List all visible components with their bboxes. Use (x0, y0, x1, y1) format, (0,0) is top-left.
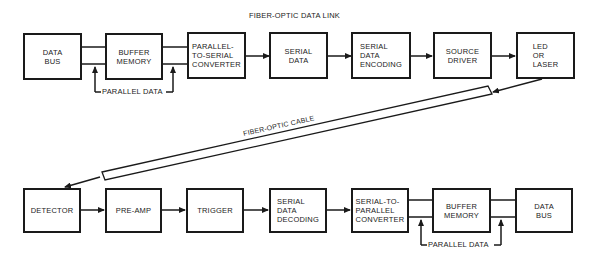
block-label: BUFFER MEMORY (444, 202, 479, 220)
block-label: BUFFER MEMORY (117, 48, 152, 66)
source-driver-block: SOURCE DRIVER (433, 32, 492, 79)
trigger-block: TRIGGER (186, 188, 244, 233)
serial-to-parallel-converter-block: SERIAL-TO- PARALLEL CONVERTER (351, 188, 409, 233)
rx-parallel-data-label: PARALLEL DATA (427, 240, 490, 249)
block-label: SERIAL DATA (285, 47, 313, 65)
block-label: PARALLEL- TO-SERIAL CONVERTER (192, 42, 241, 69)
block-label: LED OR LASER (533, 42, 559, 69)
tx-buffer-memory-block: BUFFER MEMORY (105, 33, 163, 80)
block-label: DATA BUS (43, 48, 63, 66)
block-label: PRE-AMP (116, 206, 152, 215)
pre-amp-block: PRE-AMP (105, 188, 162, 233)
rx-data-bus-block: DATA BUS (515, 188, 573, 233)
block-label: DETECTOR (31, 206, 74, 215)
detector-block: DETECTOR (23, 188, 81, 233)
block-label: SERIAL-TO- PARALLEL CONVERTER (356, 197, 405, 224)
serial-data-decoding-block: SERIAL DATA DECODING (269, 188, 327, 233)
block-label: SOURCE DRIVER (446, 47, 479, 65)
serial-data-block: SERIAL DATA (269, 32, 328, 79)
led-or-laser-block: LED OR LASER (516, 32, 575, 79)
serial-data-encoding-block: SERIAL DATA ENCODING (351, 32, 411, 79)
block-label: DATA BUS (534, 202, 554, 220)
block-label: TRIGGER (197, 206, 233, 215)
tx-parallel-data-label: PARALLEL DATA (101, 87, 164, 96)
block-label: SERIAL DATA ENCODING (360, 42, 402, 69)
parallel-to-serial-converter-block: PARALLEL- TO-SERIAL CONVERTER (187, 32, 246, 79)
block-label: SERIAL DATA DECODING (277, 197, 319, 224)
tx-data-bus-block: DATA BUS (23, 33, 82, 80)
rx-buffer-memory-block: BUFFER MEMORY (432, 188, 491, 233)
